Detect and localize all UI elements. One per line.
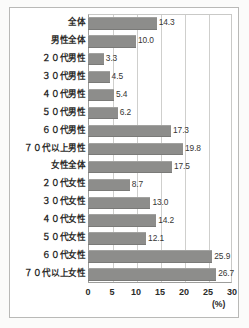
bar-value-label: 17.5: [174, 160, 190, 173]
category-label: ３０代男性: [42, 68, 86, 86]
bar-value-label: 5.4: [116, 88, 127, 101]
bar-row: 10.0: [0, 32, 249, 50]
bar-value-label: 12.1: [148, 232, 164, 245]
category-label: ６０代女性: [42, 247, 86, 265]
x-tick-label-10: 10: [131, 286, 141, 298]
bar: [88, 179, 130, 191]
bar-row: 3.3: [0, 50, 249, 68]
category-label: ３０代女性: [42, 193, 86, 211]
bar-row: 25.9: [0, 247, 249, 265]
x-axis-unit-label: (%): [212, 298, 225, 310]
x-tick-label-0: 0: [85, 286, 90, 298]
bar-value-label: 13.0: [152, 196, 168, 209]
horizontal-bar-chart: 14.310.03.34.55.46.217.319.817.58.713.01…: [0, 0, 249, 328]
bar: [88, 232, 146, 244]
x-tick-label-20: 20: [179, 286, 189, 298]
category-label: ７０代以上女性: [24, 265, 86, 283]
bar-value-label: 4.5: [112, 70, 123, 83]
bar-row: 8.7: [0, 175, 249, 193]
scanned-page: 14.310.03.34.55.46.217.319.817.58.713.01…: [0, 0, 249, 328]
bar: [88, 143, 183, 155]
x-tick-label-15: 15: [155, 286, 165, 298]
bar: [88, 17, 157, 29]
category-label: ５０代女性: [42, 229, 86, 247]
x-tick-label-5: 5: [109, 286, 114, 298]
category-label: ６０代男性: [42, 122, 86, 140]
bar-row: 14.2: [0, 211, 249, 229]
bar-row: 13.0: [0, 193, 249, 211]
bar-value-label: 3.3: [106, 52, 117, 65]
bar-value-label: 19.8: [185, 142, 201, 155]
bar: [88, 161, 172, 173]
x-tick-label-25: 25: [203, 286, 213, 298]
category-label: 全体: [68, 14, 86, 32]
bar-value-label: 14.2: [158, 214, 174, 227]
bar-row: 14.3: [0, 14, 249, 32]
bar-row: 4.5: [0, 68, 249, 86]
bar: [88, 268, 216, 280]
category-label: 男性全体: [51, 32, 86, 50]
bar: [88, 107, 118, 119]
bar: [88, 125, 171, 137]
bar: [88, 53, 104, 65]
category-label: ７０代以上男性: [24, 140, 86, 158]
bar: [88, 197, 150, 209]
x-tick-label-30: 30: [227, 286, 237, 298]
category-label: ５０代男性: [42, 104, 86, 122]
bar: [88, 214, 156, 226]
bar-value-label: 14.3: [159, 16, 175, 29]
bar-value-label: 8.7: [132, 178, 143, 191]
bar-value-label: 10.0: [138, 34, 154, 47]
bar: [88, 250, 212, 262]
bar-row: 5.4: [0, 86, 249, 104]
category-label: ２０代女性: [42, 175, 86, 193]
category-label: ４０代女性: [42, 211, 86, 229]
bar-value-label: 25.9: [214, 250, 230, 263]
bar-value-label: 26.7: [218, 267, 234, 280]
category-label: ２０代男性: [42, 50, 86, 68]
category-label: ４０代男性: [42, 86, 86, 104]
bar-value-label: 6.2: [120, 106, 131, 119]
bar-row: 12.1: [0, 229, 249, 247]
bar-row: 17.3: [0, 122, 249, 140]
bar-row: 6.2: [0, 104, 249, 122]
bar: [88, 35, 136, 47]
bar: [88, 89, 114, 101]
bar-value-label: 17.3: [173, 124, 189, 137]
category-label: 女性全体: [51, 157, 86, 175]
bar-row: 17.5: [0, 157, 249, 175]
bar: [88, 71, 110, 83]
